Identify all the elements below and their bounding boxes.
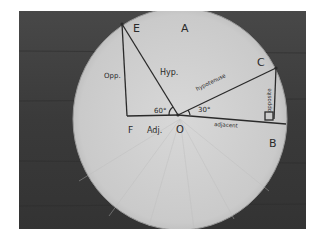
label-point-b: B [269,137,277,150]
label-adj: Adj. [147,126,162,135]
photo: E A C F O B Opp. Hyp. Adj. 60° 30° hypot… [19,11,306,229]
point-c [274,66,277,69]
point-o [176,113,179,116]
label-opp: Opp. [104,72,121,80]
label-hyp: Hyp. [160,68,178,77]
label-point-a: A [181,22,189,35]
label-angle-30: 30° [198,106,210,114]
point-e [120,22,123,25]
label-point-o: O [176,124,184,135]
label-point-e: E [133,22,140,35]
label-point-f: F [128,125,133,135]
label-point-c: C [257,56,265,69]
label-angle-60: 60° [154,107,166,115]
label-opposite: opposite [266,88,273,112]
